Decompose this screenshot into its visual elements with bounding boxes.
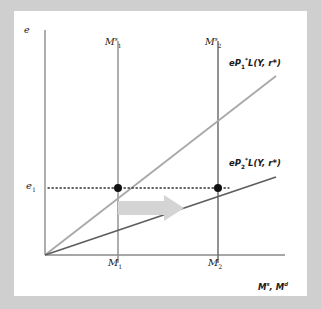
curve-label-ep1l-tail: L(Y, r*): [248, 58, 281, 68]
curve-label-ep2l-tail: L(Y, r*): [248, 158, 281, 168]
x-tick-m1-sub: 1: [118, 263, 122, 270]
shift-arrow-icon: [118, 195, 184, 221]
x-tick-m1: M1: [108, 258, 122, 270]
x-axis-label: Ms, Md: [258, 282, 288, 291]
x-tick-m2-sub: 2: [218, 263, 222, 270]
chart-svg: [14, 11, 307, 296]
curve-label-ep2l-sub: 2: [241, 164, 245, 170]
supply-line-label-1: Ms1: [105, 37, 122, 50]
x-tick-m2-base: M: [208, 257, 218, 268]
curve-label-ep2l-lead: eP: [229, 158, 241, 168]
supply-line-label-2: Ms2: [205, 37, 222, 50]
curve-ep2l: [45, 177, 276, 255]
curve-label-ep1l-lead: eP: [229, 58, 241, 68]
x-axis-label-md-sup: d: [284, 281, 288, 287]
equilibrium-point-1: [114, 184, 122, 192]
supply-line-label-2-sup: s: [215, 36, 218, 42]
figure-container: e e1 Ms1 Ms2 M1 M2 eP1*L(Y, r*) eP2*L(Y,…: [0, 0, 321, 309]
x-tick-m1-base: M: [108, 257, 118, 268]
supply-line-label-1-sup: s: [115, 36, 118, 42]
y-axis-label: e: [24, 25, 30, 35]
y-tick-e1: e1: [26, 181, 36, 193]
curve-label-ep1l: eP1*L(Y, r*): [229, 58, 281, 70]
supply-line-label-2-sub: 2: [218, 43, 222, 49]
supply-line-label-1-sub: 1: [118, 43, 122, 49]
supply-line-label-2-base: M: [205, 36, 215, 47]
supply-line-label-1-base: M: [105, 36, 115, 47]
curve-label-ep1l-sub: 1: [241, 64, 245, 70]
x-tick-m2: M2: [208, 258, 222, 270]
curve-label-ep2l: eP2*L(Y, r*): [229, 158, 281, 170]
y-tick-e1-sub: 1: [32, 186, 36, 193]
equilibrium-point-2: [214, 184, 222, 192]
chart-panel: [14, 11, 307, 296]
x-axis-label-md-base: M: [276, 282, 284, 292]
